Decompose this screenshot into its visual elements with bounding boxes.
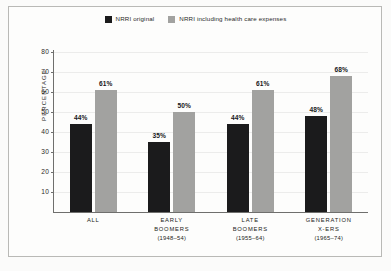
chart-bars-area: 44%61%35%50%44%61%48%68% <box>54 52 368 212</box>
x-axis-category-label-line: BOOMERS <box>133 225 212 234</box>
x-axis-category-label: ALL <box>54 216 133 243</box>
bar-group: 44%61% <box>211 52 290 212</box>
y-axis-tick-label: 10 <box>41 188 49 195</box>
y-axis-tick-label: 70 <box>41 68 49 75</box>
bar-item[interactable]: 48% <box>305 52 327 212</box>
bar-value-label: 50% <box>178 103 192 110</box>
bar-rect[interactable] <box>173 112 195 212</box>
y-axis-tick-label: 30 <box>41 148 49 155</box>
bar-value-label: 35% <box>153 133 167 140</box>
bar-rect[interactable] <box>305 116 327 212</box>
x-axis-category-label-line: LATE <box>211 216 290 225</box>
bar-item[interactable]: 61% <box>95 52 117 212</box>
x-axis-category-label-line: GENERATION <box>290 216 369 225</box>
bar-group: 44%61% <box>54 52 133 212</box>
y-axis-tick-label: 60 <box>41 88 49 95</box>
bar-item[interactable]: 44% <box>227 52 249 212</box>
bar-value-label: 44% <box>74 115 88 122</box>
bar-value-label: 44% <box>231 115 245 122</box>
x-axis-category-label-line: (1948–54) <box>133 234 212 243</box>
x-axis-category-label-line: BOOMERS <box>211 225 290 234</box>
bar-item[interactable]: 50% <box>173 52 195 212</box>
y-axis-tick-label: 80 <box>41 48 49 55</box>
bar-group: 35%50% <box>133 52 212 212</box>
bar-rect[interactable] <box>227 124 249 212</box>
y-axis-tick-label: 40 <box>41 128 49 135</box>
x-axis-category-label-line: X-ERS <box>290 225 369 234</box>
x-axis-category-labels: ALLEARLYBOOMERS(1948–54)LATEBOOMERS(1955… <box>54 216 368 243</box>
bar-item[interactable]: 61% <box>252 52 274 212</box>
bar-rect[interactable] <box>252 90 274 212</box>
x-axis-category-label-line: EARLY <box>133 216 212 225</box>
bar-rect[interactable] <box>95 90 117 212</box>
bar-item[interactable]: 35% <box>148 52 170 212</box>
bar-value-label: 61% <box>99 81 113 88</box>
bar-rect[interactable] <box>148 142 170 212</box>
chart-figure: NRRI originalNRRI including health care … <box>0 0 391 271</box>
bar-value-label: 61% <box>256 81 270 88</box>
x-axis-category-label: LATEBOOMERS(1955–64) <box>211 216 290 243</box>
bar-item[interactable]: 44% <box>70 52 92 212</box>
bar-value-label: 48% <box>310 107 324 114</box>
x-axis-category-label-line: (1965–74) <box>290 234 369 243</box>
bar-group: 48%68% <box>290 52 369 212</box>
x-axis-category-label-line: (1955–64) <box>211 234 290 243</box>
x-axis-category-label: GENERATIONX-ERS(1965–74) <box>290 216 369 243</box>
bar-rect[interactable] <box>330 76 352 212</box>
y-axis-tick-label: 20 <box>41 168 49 175</box>
bar-rect[interactable] <box>70 124 92 212</box>
x-axis-category-label: EARLYBOOMERS(1948–54) <box>133 216 212 243</box>
bar-item[interactable]: 68% <box>330 52 352 212</box>
x-axis-category-label-line: ALL <box>54 216 133 225</box>
bar-value-label: 68% <box>335 67 349 74</box>
y-axis-tick-label: 50 <box>41 108 49 115</box>
